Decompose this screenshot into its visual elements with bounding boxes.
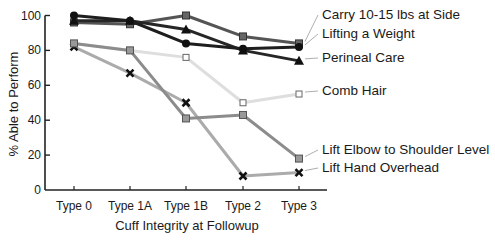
series-layer [69, 12, 304, 180]
x-tick-label: Type 1B [164, 199, 208, 213]
data-point-marker [183, 12, 190, 19]
data-point-marker [240, 111, 247, 118]
series-label: Lift Elbow to Shoulder Level [322, 142, 489, 157]
data-point-marker [182, 39, 190, 47]
x-tick-label: Type 1A [108, 199, 152, 213]
data-point-marker [240, 33, 247, 40]
series-label: Lift Hand Overhead [322, 160, 439, 175]
y-tick-label: 40 [28, 113, 42, 127]
y-tick-label: 60 [28, 78, 42, 92]
data-point-marker [295, 43, 303, 51]
x-tick-label: Type 0 [56, 199, 92, 213]
data-point-marker [296, 91, 302, 97]
y-axis-title: % Able to Perform [6, 52, 21, 157]
series-label: Lifting a Weight [322, 26, 415, 41]
data-point-marker [127, 47, 134, 54]
data-point-marker [239, 45, 247, 53]
x-tick-label: Type 2 [225, 199, 261, 213]
data-point-marker [126, 17, 134, 25]
data-point-marker [70, 12, 78, 20]
series-label: Carry 10-15 lbs at Side [322, 7, 460, 22]
y-tick-label: 100 [21, 9, 41, 23]
y-tick-label: 80 [28, 43, 42, 57]
y-axis: 020406080100 [21, 9, 50, 198]
y-tick-label: 20 [28, 148, 42, 162]
series-label: Comb Hair [322, 83, 387, 98]
data-point-marker [296, 155, 303, 162]
x-tick-label: Type 3 [281, 199, 317, 213]
series-lift-hand-overhead [71, 43, 303, 179]
series-comb-hair [71, 40, 302, 105]
data-point-marker [240, 100, 246, 106]
x-axis-title: Cuff Integrity at Followup [115, 218, 259, 233]
data-point-marker [71, 40, 78, 47]
x-axis: Type 0Type 1AType 1BType 2Type 3 [45, 186, 327, 213]
data-point-marker [183, 115, 190, 122]
series-labels: Carry 10-15 lbs at SideLifting a WeightP… [305, 7, 489, 175]
series-label: Perineal Care [322, 50, 405, 65]
y-tick-label: 0 [34, 183, 41, 197]
line-chart: 020406080100 Type 0Type 1AType 1BType 2T… [0, 0, 495, 241]
data-point-marker [183, 54, 189, 60]
